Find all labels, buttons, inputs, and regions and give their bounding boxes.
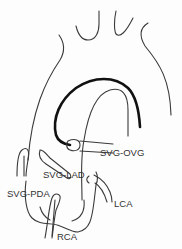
svg-pda-graft — [17, 148, 29, 176]
heart-drawing — [0, 0, 182, 249]
label-svg-ovg: SVG-OVG — [100, 148, 144, 158]
svg-ovg-graft — [55, 79, 140, 145]
lad-notch — [87, 176, 89, 183]
label-rca: RCA — [57, 232, 77, 242]
diagram-canvas: SVG-OVG SVG-LAD SVG-PDA LCA RCA — [0, 0, 182, 249]
label-lca: LCA — [114, 199, 132, 209]
aorta-left-wall — [28, 35, 64, 160]
label-svg-lad: SVG-LAD — [43, 170, 85, 180]
left-carotid-branch — [115, 11, 134, 35]
brachiocephalic-branch — [76, 11, 99, 40]
lower-septum-line — [72, 200, 84, 221]
lca-vessel-inner — [95, 183, 107, 202]
aorta-right-wall — [141, 23, 171, 115]
label-svg-pda: SVG-PDA — [7, 189, 50, 199]
lca-vessel — [94, 175, 112, 202]
